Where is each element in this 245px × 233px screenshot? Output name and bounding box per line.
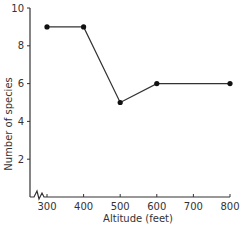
data-point-marker	[154, 81, 159, 86]
y-tick-label: 10	[11, 3, 24, 14]
data-point-marker	[227, 81, 232, 86]
y-tick-label: 6	[18, 78, 24, 89]
x-tick-label: 600	[147, 201, 166, 212]
x-tick-label: 700	[184, 201, 203, 212]
line-chart: 246810 300400500600700800 Number of spec…	[0, 0, 245, 233]
data-point-marker	[44, 24, 49, 29]
y-tick-label: 2	[18, 154, 24, 165]
series-line	[47, 27, 230, 103]
y-tick-label: 4	[18, 116, 24, 127]
y-axis-ticks: 246810	[11, 3, 30, 165]
data-series	[44, 24, 232, 105]
data-point-marker	[81, 24, 86, 29]
y-axis-label: Number of species	[3, 77, 14, 171]
data-point-marker	[118, 100, 123, 105]
axes	[30, 8, 230, 199]
y-tick-label: 8	[18, 40, 24, 51]
x-tick-label: 300	[37, 201, 56, 212]
x-tick-label: 400	[74, 201, 93, 212]
x-axis-line-with-break	[30, 191, 230, 199]
x-tick-label: 500	[111, 201, 130, 212]
x-axis-label: Altitude (feet)	[103, 213, 173, 224]
x-tick-label: 800	[220, 201, 239, 212]
